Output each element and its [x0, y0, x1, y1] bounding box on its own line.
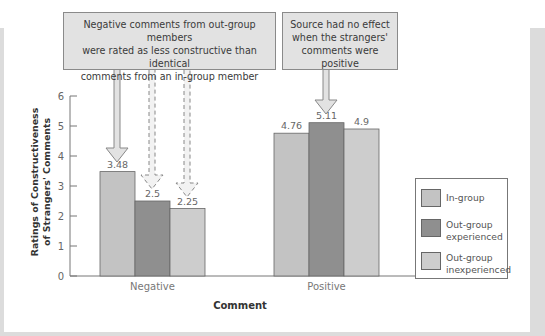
- legend-label-line: Out-group: [446, 252, 511, 264]
- legend-label-line: inexperienced: [446, 264, 511, 276]
- annotation-positive-callout: Source had no effect when the strangers'…: [282, 12, 398, 70]
- annotation-line: comments from an in-group member: [64, 70, 275, 83]
- arrow-down-icon: [315, 70, 337, 114]
- y-axis-label-line1: Ratings of Constructiveness: [29, 107, 41, 257]
- bar-negative: [100, 172, 135, 276]
- annotation-line: Negative comments from out-group members: [64, 18, 275, 44]
- annotation-negative-callout: Negative comments from out-group members…: [63, 12, 276, 70]
- legend-item-in-group: In-group: [421, 189, 485, 207]
- bar-positive: [274, 133, 309, 276]
- legend-swatch: [421, 252, 441, 270]
- annotation-line: Source had no effect: [283, 18, 397, 31]
- y-tick-label: 4: [58, 151, 64, 162]
- legend-label-line: experienced: [446, 231, 503, 243]
- y-tick-label: 3: [58, 181, 64, 192]
- bar-value-label: 4.76: [281, 120, 302, 131]
- annotation-line: when the strangers': [283, 31, 397, 44]
- y-tick-label: 5: [58, 121, 64, 132]
- legend-item-out-group-experienced: Out-group experienced: [421, 219, 503, 242]
- bar-value-label: 2.25: [177, 196, 198, 207]
- y-tick-label: 2: [58, 211, 64, 222]
- y-tick-label: 0: [58, 271, 64, 282]
- x-axis-label: Comment: [200, 300, 280, 311]
- legend-label: In-group: [446, 189, 485, 204]
- legend-swatch: [421, 219, 441, 237]
- y-tick-label: 6: [58, 91, 64, 102]
- y-tick-label: 1: [58, 241, 64, 252]
- bar-positive: [344, 129, 379, 276]
- legend-label-line: In-group: [446, 192, 485, 204]
- dashed-arrow-down-icon: [141, 70, 163, 189]
- chart-legend: In-group Out-group experienced Out-group…: [415, 178, 508, 279]
- dashed-arrow-down-icon: [176, 70, 198, 197]
- legend-label-line: Out-group: [446, 219, 503, 231]
- x-category-label: Positive: [307, 281, 346, 292]
- legend-item-out-group-inexperienced: Out-group inexperienced: [421, 252, 511, 275]
- y-axis-label-line2: of Strangers' Comments: [41, 107, 53, 257]
- annotation-line: comments were positive: [283, 44, 397, 70]
- y-axis-label: Ratings of Constructiveness of Strangers…: [29, 107, 53, 257]
- arrow-down-icon: [106, 70, 128, 162]
- bar-value-label: 4.9: [354, 116, 369, 127]
- bar-positive: [309, 123, 344, 276]
- legend-label: Out-group inexperienced: [446, 252, 511, 275]
- x-category-label: Negative: [130, 281, 175, 292]
- annotation-line: were rated as less constructive than ide…: [64, 44, 275, 70]
- bar-negative: [170, 209, 205, 277]
- bar-value-label: 2.5: [145, 188, 160, 199]
- legend-swatch: [421, 189, 441, 207]
- bar-negative: [135, 201, 170, 276]
- legend-label: Out-group experienced: [446, 219, 503, 242]
